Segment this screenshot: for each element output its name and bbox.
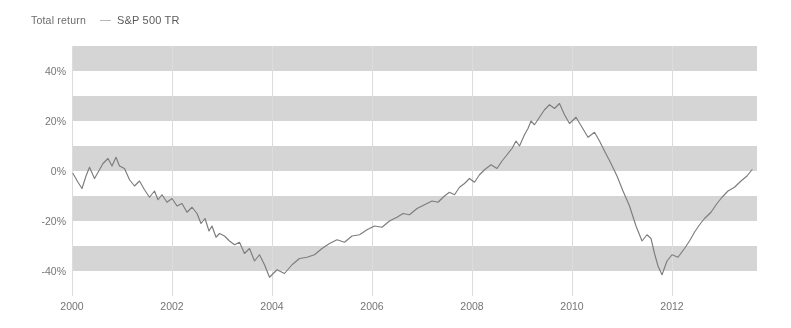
x-axis: 2000200220042006200820102012 xyxy=(72,300,757,320)
legend-title: Total return xyxy=(31,14,86,26)
x-tick-label: 2002 xyxy=(160,300,183,312)
line-dash-icon xyxy=(100,20,111,21)
y-tick-label: -20% xyxy=(41,215,66,227)
series-layer xyxy=(72,46,757,296)
x-tick-label: 2010 xyxy=(560,300,583,312)
y-tick-label: 20% xyxy=(45,115,66,127)
chart-container: Total return S&P 500 TR 40%20%0%-20%-40%… xyxy=(0,0,791,328)
y-tick-label: 40% xyxy=(45,65,66,77)
y-axis: 40%20%0%-20%-40% xyxy=(0,46,66,296)
x-tick-label: 2012 xyxy=(660,300,683,312)
y-tick-label: 0% xyxy=(51,165,66,177)
x-tick-label: 2004 xyxy=(260,300,283,312)
y-tick-label: -40% xyxy=(41,265,66,277)
x-tick-label: 2000 xyxy=(60,300,83,312)
x-tick-label: 2006 xyxy=(360,300,383,312)
plot-area xyxy=(72,46,757,296)
series-line-sp500 xyxy=(73,104,752,278)
legend-entry-sp500[interactable]: S&P 500 TR xyxy=(100,14,180,26)
x-tick-label: 2008 xyxy=(460,300,483,312)
legend-series-label: S&P 500 TR xyxy=(117,14,180,26)
chart-legend: Total return S&P 500 TR xyxy=(31,14,180,26)
